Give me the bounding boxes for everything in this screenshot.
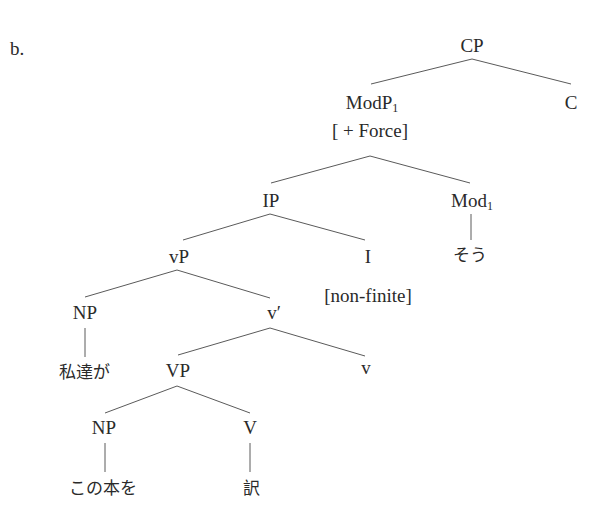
node-small-v: v xyxy=(361,358,371,378)
node-modp1: ModP1 xyxy=(346,93,398,118)
word-sou: そう xyxy=(453,245,487,265)
word-kono-hon-wo: この本を xyxy=(69,478,137,498)
tree-branches xyxy=(0,0,606,526)
example-label: b. xyxy=(10,38,24,60)
feature-nonfinite: [non-finite] xyxy=(324,286,412,306)
node-mod1: Mod1 xyxy=(451,191,493,216)
node-np-object: NP xyxy=(92,418,116,438)
node-i: I xyxy=(365,247,371,267)
word-yaku: 訳 xyxy=(243,478,260,498)
node-vp: VP xyxy=(166,361,190,381)
word-watashitachi-ga: 私達が xyxy=(59,362,110,382)
feature-force: [ + Force] xyxy=(332,121,408,141)
node-c: C xyxy=(565,93,578,113)
node-np-subject: NP xyxy=(73,303,97,323)
node-v: V xyxy=(243,418,257,438)
node-v-bar: v′ xyxy=(267,303,281,323)
node-ip: IP xyxy=(263,191,280,211)
node-cp: CP xyxy=(460,36,483,56)
node-small-vp: vP xyxy=(169,247,189,267)
